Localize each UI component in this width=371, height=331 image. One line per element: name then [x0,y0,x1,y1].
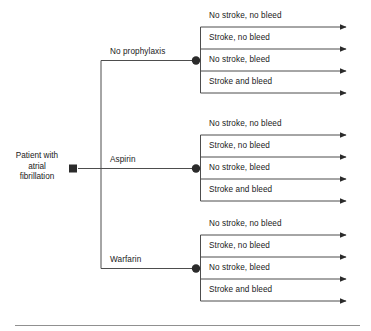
outcome-label-1-3: No stroke, bleed [209,55,270,66]
root-label-line-3: fibrillation [4,172,70,183]
outcome-label-1-4: Stroke and bleed [209,77,272,88]
outcome-label-1-2: Stroke, no bleed [209,33,270,44]
outcome-label-2-1: No stroke, no bleed [209,119,282,130]
branch-label-no-prophylaxis: No prophylaxis [110,47,165,58]
chance-node-circle-icon-2 [192,164,200,172]
branch-label-aspirin: Aspirin [110,155,136,166]
decision-node-square-icon [69,165,77,173]
root-node-label: Patient with atrial fibrillation [4,151,70,183]
branch-label-warfarin: Warfarin [110,255,141,266]
decision-tree-figure: Patient with atrial fibrillation No prop… [0,0,371,331]
root-label-line-2: atrial [4,162,70,173]
outcome-label-2-3: No stroke, bleed [209,163,270,174]
outcome-label-2-4: Stroke and bleed [209,185,272,196]
root-label-line-1: Patient with [4,151,70,162]
chance-node-circle-icon-1 [192,56,200,64]
outcome-label-3-3: No stroke, bleed [209,263,270,274]
outcome-label-2-2: Stroke, no bleed [209,141,270,152]
outcome-label-3-2: Stroke, no bleed [209,241,270,252]
outcome-label-3-1: No stroke, no bleed [209,219,282,230]
outcome-label-1-1: No stroke, no bleed [209,11,282,22]
chance-node-circle-icon-3 [192,264,200,272]
outcome-label-3-4: Stroke and bleed [209,285,272,296]
